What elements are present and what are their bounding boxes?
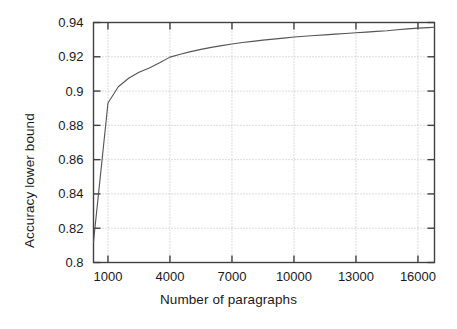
data-series-group xyxy=(94,27,435,242)
x-tick-label: 7000 xyxy=(218,269,247,284)
x-tick-label: 16000 xyxy=(400,269,436,284)
y-tick-label: 0.8 xyxy=(65,255,83,270)
x-tick-label: 4000 xyxy=(156,269,185,284)
y-tick-labels-group: 0.80.820.840.860.880.90.920.94 xyxy=(58,15,83,270)
y-tick-label: 0.92 xyxy=(58,49,83,64)
data-line xyxy=(94,27,435,242)
x-tick-label: 13000 xyxy=(338,269,374,284)
x-tick-label: 10000 xyxy=(276,269,312,284)
y-tick-label: 0.88 xyxy=(58,118,83,133)
plot-area: 0.80.820.840.860.880.90.920.94 100040007… xyxy=(0,0,457,329)
tick-marks-group xyxy=(94,23,435,263)
x-tick-labels-group: 100040007000100001300016000 xyxy=(94,269,437,284)
y-tick-label: 0.9 xyxy=(65,84,83,99)
y-tick-label: 0.84 xyxy=(58,186,83,201)
y-tick-label: 0.82 xyxy=(58,221,83,236)
gridlines-group xyxy=(94,23,435,263)
y-tick-label: 0.94 xyxy=(58,15,83,30)
x-tick-label: 1000 xyxy=(94,269,123,284)
chart-figure: Accuracy lower bound Number of paragraph… xyxy=(0,0,457,329)
plot-border xyxy=(94,23,435,263)
y-tick-label: 0.86 xyxy=(58,152,83,167)
